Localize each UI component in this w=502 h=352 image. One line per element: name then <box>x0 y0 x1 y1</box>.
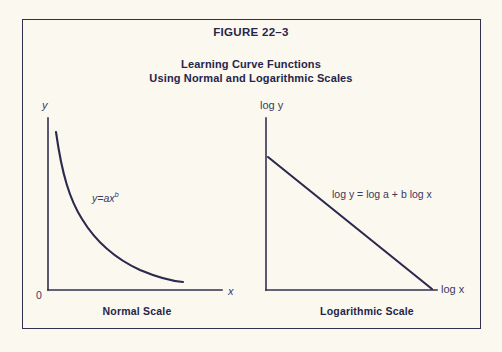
learning-curve-path <box>56 132 183 282</box>
figure-subtitle-line-1: Learning Curve Functions <box>0 57 502 71</box>
log-scale-equation-label: log y = log a + b log x <box>332 188 432 200</box>
caption-logarithmic-scale: Logarithmic Scale <box>252 305 482 317</box>
log-linear-path <box>268 157 432 289</box>
log-y-axis-label: log y <box>260 99 283 111</box>
normal-scale-plot <box>22 95 252 330</box>
origin-label: 0 <box>36 289 42 301</box>
normal-scale-equation-exponent: b <box>114 190 118 199</box>
x-axis-label: x <box>228 285 234 297</box>
log-x-axis-label: log x <box>441 283 464 295</box>
figure-number-label: FIGURE 22–3 <box>0 26 502 38</box>
normal-scale-equation-label: y=axb <box>92 190 119 204</box>
figure-page: FIGURE 22–3 Learning Curve Functions Usi… <box>0 0 502 352</box>
chart-logarithmic-scale: log y log x log y = log a + b log x <box>252 95 482 330</box>
y-axis-label: y <box>42 99 48 111</box>
normal-scale-equation-base: y=ax <box>92 192 114 204</box>
caption-normal-scale: Normal Scale <box>22 305 252 317</box>
chart-normal-scale: y x 0 y=axb <box>22 95 252 330</box>
figure-subtitle: Learning Curve Functions Using Normal an… <box>0 57 502 85</box>
figure-subtitle-line-2: Using Normal and Logarithmic Scales <box>0 71 502 85</box>
